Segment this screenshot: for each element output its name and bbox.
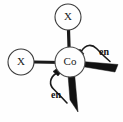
ligand-label-x-left: X	[17, 55, 25, 67]
chelate-label-en-bottom: en	[51, 89, 61, 100]
chelate-label-en-right: en	[99, 46, 109, 57]
cobalt-label: Co	[64, 55, 77, 67]
chemical-structure-figure: Co X X en en	[0, 0, 123, 122]
ligand-label-x-top: X	[64, 10, 72, 22]
structure-diagram: Co X X en en	[0, 0, 123, 122]
